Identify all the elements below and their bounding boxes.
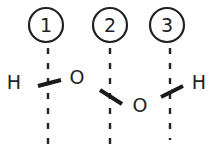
marker-label-3: 3 <box>161 14 173 36</box>
peroxide-diagram: 1 2 3 H O O H <box>0 0 210 154</box>
atom-o-left: O <box>70 66 85 88</box>
bond-o-h-right <box>161 86 183 97</box>
marker-label-1: 1 <box>40 14 52 36</box>
atom-o-right: O <box>133 94 148 116</box>
bond-o-o <box>100 90 122 104</box>
atom-h-right: H <box>192 71 206 93</box>
marker-1: 1 <box>29 8 63 42</box>
marker-label-2: 2 <box>104 14 116 36</box>
marker-2: 2 <box>93 8 127 42</box>
marker-3: 3 <box>150 8 184 42</box>
bond-h-o-left <box>38 80 61 86</box>
atom-h-left: H <box>7 71 21 93</box>
